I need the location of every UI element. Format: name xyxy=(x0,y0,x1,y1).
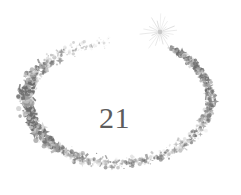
confetti-swirl-artwork xyxy=(0,0,241,195)
confetti-trail xyxy=(16,35,219,170)
illustration-canvas: 21 xyxy=(0,0,241,195)
sparkle-burst-icon xyxy=(140,14,177,49)
